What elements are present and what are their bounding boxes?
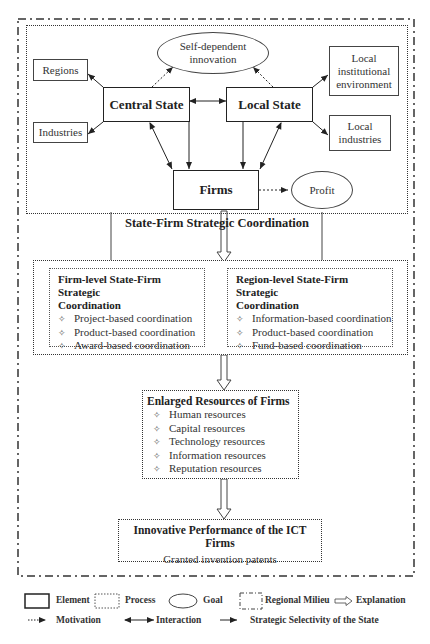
- enlarged-resources-box: Enlarged Resources of Firms ✧Human resou…: [142, 390, 299, 479]
- list-item-text: Product-based coordination: [252, 326, 373, 338]
- goal-self-dependent-innovation: Self-dependent innovation: [157, 32, 269, 74]
- legend-interaction-label: Interaction: [156, 615, 201, 625]
- local-state-label: Local State: [238, 97, 300, 113]
- list-item: ✧Information resources: [153, 449, 298, 463]
- legend-element-label: Element: [56, 595, 90, 605]
- list-item: ✧Capital resources: [153, 422, 298, 436]
- explanation-arrow-3: [217, 479, 231, 519]
- innovative-performance-box: Innovative Performance of the ICT Firms …: [118, 519, 322, 562]
- local-industries-line2: industries: [339, 133, 382, 146]
- list-item: ✧Product-based coordination: [236, 326, 392, 340]
- firm-level-list: ✧Project-based coordination ✧Product-bas…: [58, 312, 204, 353]
- legend-process-icon: [95, 594, 119, 608]
- firm-level-title-2: Coordination: [58, 299, 204, 312]
- region-level-coordination-box: Region-level State-Firm Strategic Coordi…: [227, 268, 393, 347]
- list-item-text: Award-based coordination: [74, 339, 190, 351]
- list-item: ✧Reputation resources: [153, 462, 298, 476]
- list-item: ✧Human resources: [153, 408, 298, 422]
- resources-title: Enlarged Resources of Firms: [147, 395, 298, 408]
- list-item: ✧Project-based coordination: [58, 312, 204, 326]
- diamond-bullet-icon: ✧: [58, 313, 74, 326]
- legend-explanation-arrow-icon: [335, 596, 352, 606]
- firm-level-title-1: Firm-level State-Firm Strategic: [58, 273, 204, 299]
- list-item-text: Information resources: [169, 449, 266, 461]
- list-item-text: Project-based coordination: [74, 312, 192, 324]
- firms-label: Firms: [199, 182, 232, 198]
- legend-regional-milieu-label: Regional Milieu: [265, 595, 330, 605]
- list-item-text: Product-based coordination: [74, 326, 195, 338]
- local-inst-line2: institutional: [336, 65, 392, 78]
- diamond-bullet-icon: ✧: [58, 340, 74, 353]
- node-local-institutional-environment: Local institutional environment: [329, 46, 399, 96]
- list-item-text: Fund-based coordination: [252, 339, 362, 351]
- legend-motivation-arrow-icon: [28, 616, 48, 624]
- legend-goal-label: Goal: [203, 595, 223, 605]
- node-industries: Industries: [33, 122, 88, 143]
- element-central-state: Central State: [103, 87, 190, 122]
- legend-explanation-label: Explanation: [356, 595, 406, 605]
- diamond-bullet-icon: ✧: [153, 409, 169, 422]
- goal-profit: Profit: [291, 171, 353, 209]
- diamond-bullet-icon: ✧: [153, 423, 169, 436]
- coordination-label: State-Firm Strategic Coordination: [110, 216, 324, 231]
- list-item: ✧Technology resources: [153, 435, 298, 449]
- industries-label: Industries: [39, 126, 82, 139]
- list-item-text: Capital resources: [169, 422, 245, 434]
- legend-process-label: Process: [125, 595, 155, 605]
- diamond-bullet-icon: ✧: [153, 463, 169, 476]
- diamond-bullet-icon: ✧: [153, 436, 169, 449]
- list-item-text: Technology resources: [169, 435, 265, 447]
- performance-subtitle: Granted invention patents: [119, 553, 321, 565]
- performance-title: Innovative Performance of the ICT Firms: [119, 524, 321, 550]
- diamond-bullet-icon: ✧: [153, 450, 169, 463]
- element-firms: Firms: [173, 170, 259, 210]
- resources-list: ✧Human resources ✧Capital resources ✧Tec…: [147, 408, 298, 476]
- region-level-title-1: Region-level State-Firm Strategic: [236, 273, 392, 299]
- node-regions: Regions: [33, 59, 88, 81]
- diamond-bullet-icon: ✧: [236, 340, 252, 353]
- firm-level-coordination-box: Firm-level State-Firm Strategic Coordina…: [49, 268, 205, 347]
- legend-element-icon: [25, 594, 49, 608]
- central-state-label: Central State: [109, 97, 183, 113]
- list-item-text: Reputation resources: [169, 462, 262, 474]
- legend-interaction-arrow-icon: [125, 616, 155, 624]
- self-dependent-innovation-line1: Self-dependent: [180, 40, 247, 53]
- regions-label: Regions: [42, 64, 78, 77]
- list-item: ✧Award-based coordination: [58, 339, 204, 353]
- list-item: ✧Information-based coordination: [236, 312, 392, 326]
- list-item: ✧Product-based coordination: [58, 326, 204, 340]
- self-dependent-innovation-line2: innovation: [180, 53, 247, 66]
- diamond-bullet-icon: ✧: [236, 313, 252, 326]
- profit-label: Profit: [309, 184, 334, 197]
- explanation-arrow-2: [217, 355, 231, 390]
- region-level-title-2: Coordination: [236, 299, 392, 312]
- diamond-bullet-icon: ✧: [58, 327, 74, 340]
- list-item: ✧Fund-based coordination: [236, 339, 392, 353]
- list-item-text: Human resources: [169, 408, 246, 420]
- node-local-industries: Local industries: [329, 115, 391, 151]
- coordination-label-text: State-Firm Strategic Coordination: [125, 216, 309, 230]
- legend-regional-milieu-icon: [240, 593, 262, 609]
- list-item-text: Information-based coordination: [252, 312, 392, 324]
- local-inst-line1: Local: [336, 52, 392, 65]
- legend-strategic-selectivity-arrow-icon: [220, 616, 238, 624]
- local-industries-line1: Local: [339, 120, 382, 133]
- element-local-state: Local State: [226, 87, 313, 122]
- diamond-bullet-icon: ✧: [236, 327, 252, 340]
- legend-motivation-label: Motivation: [56, 615, 101, 625]
- legend-goal-icon: [169, 594, 197, 608]
- local-inst-line3: environment: [336, 78, 392, 91]
- legend-strategic-selectivity-label: Strategic Selectivity of the State: [250, 615, 379, 625]
- region-level-list: ✧Information-based coordination ✧Product…: [236, 312, 392, 353]
